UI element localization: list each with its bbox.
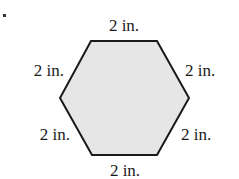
- label-lower-right: 2 in.: [181, 125, 211, 144]
- bullet-marker: [3, 14, 6, 17]
- label-bottom: 2 in.: [110, 161, 140, 179]
- hexagon-diagram: 2 in. 2 in. 2 in. 2 in. 2 in. 2 in.: [0, 0, 239, 179]
- label-upper-right: 2 in.: [185, 61, 215, 80]
- label-top: 2 in.: [109, 16, 139, 35]
- hexagon-shape: [60, 41, 189, 155]
- label-lower-left: 2 in.: [40, 125, 70, 144]
- label-upper-left: 2 in.: [34, 61, 64, 80]
